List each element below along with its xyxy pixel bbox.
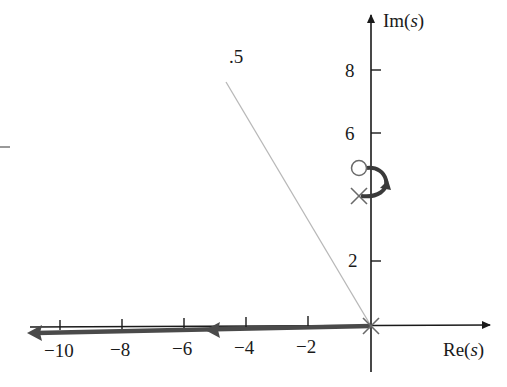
- locus-arrow-mid-icon: [205, 322, 220, 338]
- zero-marker-icon: [352, 161, 367, 176]
- damping-ratio-line: [226, 82, 371, 326]
- x-tick-label: −4: [234, 337, 255, 358]
- y-tick-label: 8: [345, 60, 355, 81]
- y-ticks: [371, 70, 381, 261]
- real-axis-label: Re(s): [443, 339, 484, 361]
- y-tick-label: 6: [345, 123, 355, 144]
- x-tick-label: −8: [110, 339, 130, 360]
- damping-ratio-label: .5: [229, 46, 243, 67]
- y-tick-label: 2: [348, 250, 358, 271]
- x-tick-label: −6: [172, 338, 192, 359]
- x-tick-label: −10: [44, 340, 74, 361]
- imaginary-axis-label: Im(s): [383, 10, 424, 32]
- x-tick-label: −2: [296, 336, 316, 357]
- root-locus-plot: .5 −10 −8 −6 −4 −2 8 6 2 Im(s) Re(s): [0, 0, 507, 387]
